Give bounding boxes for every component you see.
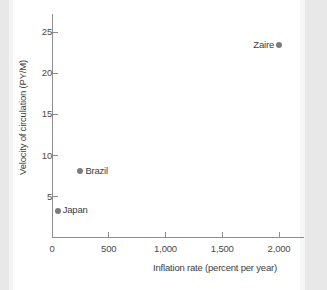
x-tick-label: 0 xyxy=(30,243,74,254)
x-tick-label: 1,000 xyxy=(144,243,188,254)
data-point-marker xyxy=(55,208,61,214)
chart-figure: 510152025 05001,0001,5002,000 Velocity o… xyxy=(0,0,327,290)
y-axis-title: Velocity of circulation (PY/M) xyxy=(17,28,28,208)
x-tick-label: 1,500 xyxy=(200,243,244,254)
data-point-label: Brazil xyxy=(85,165,108,176)
page-edge-left-inner xyxy=(9,0,13,290)
y-tick-mark xyxy=(53,196,58,197)
x-tick-label: 500 xyxy=(87,243,131,254)
x-axis-title: Inflation rate (percent per year) xyxy=(120,262,310,273)
page-edge-left xyxy=(0,0,9,290)
data-point-marker xyxy=(77,168,83,174)
y-tick-mark xyxy=(53,32,58,33)
x-axis-line xyxy=(52,237,304,238)
data-point-label: Zaire xyxy=(253,39,274,50)
y-tick-mark xyxy=(53,114,58,115)
x-tick-mark xyxy=(165,232,166,237)
y-axis-line xyxy=(52,14,53,238)
x-tick-label: 2,000 xyxy=(257,243,301,254)
data-point-label: Japan xyxy=(63,204,88,215)
data-point-marker xyxy=(276,42,282,48)
y-tick-mark xyxy=(53,73,58,74)
y-tick-mark xyxy=(53,155,58,156)
x-tick-mark xyxy=(108,232,109,237)
x-tick-mark xyxy=(279,232,280,237)
page-edge-right xyxy=(305,0,327,290)
x-tick-mark xyxy=(222,232,223,237)
